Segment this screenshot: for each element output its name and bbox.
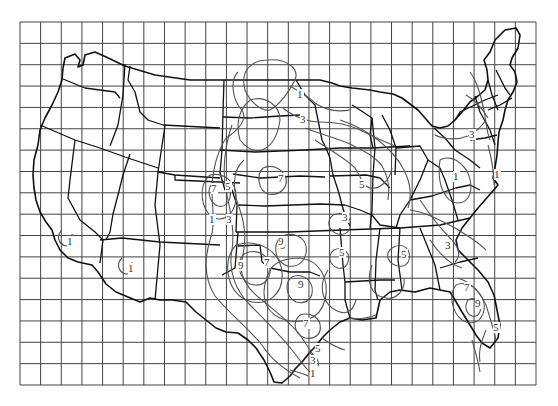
contour-label: 5 (401, 248, 407, 260)
contour-label: 7 (278, 172, 284, 184)
contour-label: 1 (209, 213, 215, 225)
contour-label: 9 (475, 297, 481, 309)
contour-label: 3 (342, 211, 348, 223)
us-contour-map: 13757531113119793553997531795 (0, 0, 558, 406)
contour-label: 7 (211, 182, 217, 194)
contour-label: 3 (226, 213, 232, 225)
contour-label: 3 (300, 113, 306, 125)
contour-label: 9 (278, 235, 284, 247)
contour-label: 9 (298, 278, 304, 290)
state-borders (40, 64, 512, 318)
contour-label: 7 (303, 317, 309, 329)
contour-label: 5 (315, 342, 321, 354)
contour-label: 1 (128, 262, 134, 274)
contour-label: 5 (339, 246, 345, 258)
contour-label: 1 (67, 235, 73, 247)
contour-label: 3 (469, 128, 475, 140)
contour-label: 5 (359, 178, 365, 190)
contour-label: 9 (238, 259, 244, 271)
contour-label: 5 (225, 180, 231, 192)
contour-label: 7 (264, 256, 270, 268)
contour-label: 3 (310, 354, 316, 366)
contour-label: 1 (310, 367, 316, 379)
contour-label: 1 (453, 170, 459, 182)
contour-labels: 13757531113119793553997531795 (67, 88, 501, 379)
contour-label: 5 (493, 321, 499, 333)
contour-label: 3 (445, 239, 451, 251)
contour-label: 1 (494, 168, 500, 180)
contour-label: 7 (464, 281, 470, 293)
contour-label: 1 (297, 88, 303, 100)
